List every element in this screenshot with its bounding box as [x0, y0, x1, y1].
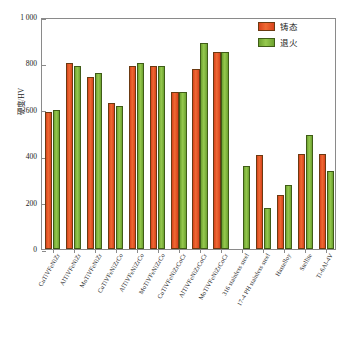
- bar-cast[interactable]: [298, 154, 305, 249]
- bar-group: [126, 19, 147, 249]
- bar-group: [295, 19, 316, 249]
- legend-swatch-annealed-icon: [258, 38, 275, 47]
- bar-annealed[interactable]: [137, 63, 144, 249]
- bar-group: [190, 19, 211, 249]
- x-axis-label: Hastelloy: [274, 252, 293, 277]
- bar-annealed[interactable]: [306, 135, 313, 249]
- bar-group: [42, 19, 63, 249]
- bar-group: [274, 19, 295, 249]
- bar-cast[interactable]: [256, 155, 263, 249]
- bar-cast[interactable]: [319, 154, 326, 249]
- x-axis-label: CuTiVFeNiZr: [36, 252, 61, 287]
- bar-annealed[interactable]: [53, 110, 60, 249]
- bar-cast[interactable]: [45, 112, 52, 249]
- y-tick-label: 0: [33, 245, 37, 254]
- y-tick-label: 800: [26, 59, 37, 68]
- bar-group: [232, 19, 253, 249]
- bar-cast[interactable]: [108, 103, 115, 249]
- x-axis-label: Stellite: [298, 252, 313, 272]
- bar-cast[interactable]: [192, 69, 199, 249]
- bar-cast[interactable]: [66, 63, 73, 249]
- bar-cast[interactable]: [213, 52, 220, 249]
- legend: 铸态 退火: [258, 20, 298, 52]
- bar-annealed[interactable]: [95, 73, 102, 249]
- hardness-bar-chart: 硬度/HV 02004006008001 000 CuTiVFeNiZrAlTi…: [0, 0, 356, 353]
- bar-group: [63, 19, 84, 249]
- y-tick-label: 1 000: [20, 13, 37, 22]
- y-tick-label: 400: [26, 152, 37, 161]
- bar-cast[interactable]: [129, 66, 136, 249]
- x-axis-label: AlTiVFeNiZr: [58, 252, 82, 287]
- bar-annealed[interactable]: [116, 106, 123, 249]
- bar-annealed[interactable]: [285, 185, 292, 249]
- bar-annealed[interactable]: [327, 171, 334, 249]
- legend-label-annealed: 退火: [280, 36, 298, 48]
- bar-annealed[interactable]: [158, 66, 165, 249]
- legend-label-cast: 铸态: [280, 20, 298, 32]
- y-tick-label: 200: [26, 199, 37, 208]
- x-axis-labels: CuTiVFeNiZrAlTiVFeNiZrMoTiVFeNiZrCuTiVFe…: [41, 252, 336, 352]
- bar-annealed[interactable]: [243, 166, 250, 249]
- legend-item-annealed[interactable]: 退火: [258, 36, 298, 48]
- bar-group: [211, 19, 232, 249]
- legend-swatch-cast-icon: [258, 22, 275, 31]
- legend-item-cast[interactable]: 铸态: [258, 20, 298, 32]
- bar-group: [147, 19, 168, 249]
- bar-annealed[interactable]: [74, 66, 81, 249]
- bar-annealed[interactable]: [264, 208, 271, 249]
- y-axis-title: 硬度/HV: [15, 62, 26, 142]
- bar-cast[interactable]: [87, 77, 94, 249]
- bar-annealed[interactable]: [179, 92, 186, 249]
- plot-area: 02004006008001 000: [41, 18, 336, 250]
- bar-annealed[interactable]: [200, 43, 207, 249]
- bar-cast[interactable]: [150, 66, 157, 249]
- bar-group: [105, 19, 126, 249]
- bar-series-container: [42, 19, 335, 249]
- bar-group: [316, 19, 337, 249]
- y-tick-label: 600: [26, 106, 37, 115]
- bar-group: [168, 19, 189, 249]
- bar-cast[interactable]: [171, 92, 178, 249]
- bar-annealed[interactable]: [221, 52, 228, 249]
- bar-cast[interactable]: [277, 195, 284, 249]
- bar-group: [253, 19, 274, 249]
- x-axis-label: Ti-6Al-4V: [315, 252, 335, 279]
- bar-group: [84, 19, 105, 249]
